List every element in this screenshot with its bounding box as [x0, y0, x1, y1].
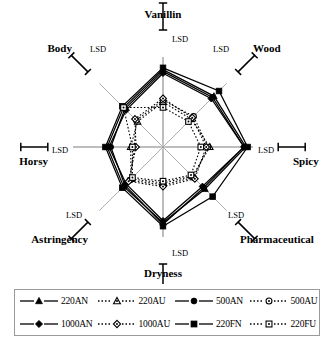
legend-label-220fn: 220FN [216, 319, 241, 329]
legend-item-500au[interactable]: 500AU [245, 295, 319, 307]
marker-220fu-astringency-center [131, 177, 133, 179]
legend-marker-220fn [191, 321, 197, 327]
marker-220fu-vanillin-center [162, 106, 164, 108]
legend-sample-220an [19, 295, 59, 307]
lsd-label-spicy: LSD [258, 145, 274, 155]
marker-220fn-pharmaceutical [210, 194, 216, 200]
legend-marker-220au-center [116, 300, 118, 302]
marker-220fn-vanillin [160, 65, 166, 71]
lsd-label-wood: LSD [213, 44, 229, 54]
legend-label-1000an: 1000AN [61, 319, 93, 329]
legend-label-500an: 500AN [216, 296, 243, 306]
marker-220fu-spicy-center [200, 146, 202, 148]
series-polygon-220au [131, 102, 210, 183]
series-polygon-500au [130, 100, 208, 185]
lsd-bar-body [71, 55, 88, 72]
legend-sample-1000au [97, 318, 137, 330]
marker-1000au-spicy-center [205, 146, 207, 148]
legend-label-220an: 220AN [61, 296, 88, 306]
lsd-label-vanillin: LSD [172, 34, 188, 44]
lsd-label-horsy: LSD [52, 145, 68, 155]
axis-label-wood: Wood [253, 42, 281, 54]
marker-220fu-dryness-center [162, 180, 164, 182]
legend-item-220an[interactable]: 220AN [15, 295, 93, 307]
legend-label-220fu: 220FU [291, 319, 316, 329]
marker-220fu-horsy-center [131, 146, 133, 148]
marker-1000au-body-center [134, 118, 136, 120]
lsd-bar-wood [238, 55, 255, 72]
radar-svg: VanillinWoodSpicyPharmaceuticalDrynessAs… [0, 0, 334, 284]
lsd-label-pharmaceutical: LSD [228, 210, 244, 220]
legend-item-1000an[interactable]: 1000AN [15, 318, 93, 330]
lsd-label-dryness: LSD [172, 248, 188, 258]
marker-220fn-wood [216, 88, 222, 94]
legend-marker-1000an [35, 320, 42, 327]
marker-220fu-pharmaceutical-center [190, 174, 192, 176]
legend-sample-1000an [19, 318, 59, 330]
legend-label-500au: 500AU [291, 296, 318, 306]
axis-label-horsy: Horsy [19, 155, 48, 167]
axis-label-pharmaceutical: Pharmaceutical [240, 233, 314, 245]
axis-labels: VanillinWoodSpicyPharmaceuticalDrynessAs… [19, 8, 319, 279]
legend-item-220fn[interactable]: 220FN [170, 318, 244, 330]
lsd-label-astringency: LSD [66, 210, 82, 220]
series-polygon-220an [107, 70, 246, 223]
marker-1000au-dryness-center [162, 186, 164, 188]
marker-220fu-wood-center [187, 121, 189, 123]
legend-marker-220fu-center [268, 323, 270, 325]
marker-220fn-spicy [245, 144, 251, 150]
legend-marker-500au-center [268, 300, 270, 302]
legend-item-220au[interactable]: 220AU [93, 295, 171, 307]
marker-220fn-horsy [103, 144, 109, 150]
axis-label-astringency: Astringency [31, 233, 88, 245]
legend-marker-220an [36, 298, 43, 304]
marker-1000au-vanillin-center [162, 97, 164, 99]
legend-label-1000au: 1000AU [139, 319, 171, 329]
legend-sample-500an [174, 295, 214, 307]
marker-220fn-astringency [119, 185, 125, 191]
axis-label-vanillin: Vanillin [145, 8, 182, 20]
axis-label-spicy: Spicy [293, 155, 319, 167]
axis-label-dryness: Dryness [144, 267, 183, 279]
marker-220fn-dryness [160, 223, 166, 229]
legend-marker-1000au-center [116, 323, 118, 325]
lsd-label-body: LSD [90, 44, 106, 54]
legend-item-1000au[interactable]: 1000AU [93, 318, 171, 330]
legend: 220AN220AU500AN500AU1000AN1000AU220FN220… [14, 289, 320, 336]
legend-item-500an[interactable]: 500AN [170, 295, 244, 307]
legend-item-220fu[interactable]: 220FU [245, 318, 319, 330]
axis-label-body: Body [48, 42, 73, 54]
radar-chart-figure: VanillinWoodSpicyPharmaceuticalDrynessAs… [0, 0, 334, 349]
legend-label-220au: 220AU [139, 296, 166, 306]
legend-sample-220fu [249, 318, 289, 330]
legend-sample-220au [97, 295, 137, 307]
legend-grid: 220AN220AU500AN500AU1000AN1000AU220FN220… [15, 290, 319, 335]
legend-sample-500au [249, 295, 289, 307]
chart-plot-area: VanillinWoodSpicyPharmaceuticalDrynessAs… [0, 0, 334, 284]
legend-marker-500an [191, 298, 197, 304]
marker-220fu-body-center [123, 107, 125, 109]
legend-sample-220fn [174, 318, 214, 330]
